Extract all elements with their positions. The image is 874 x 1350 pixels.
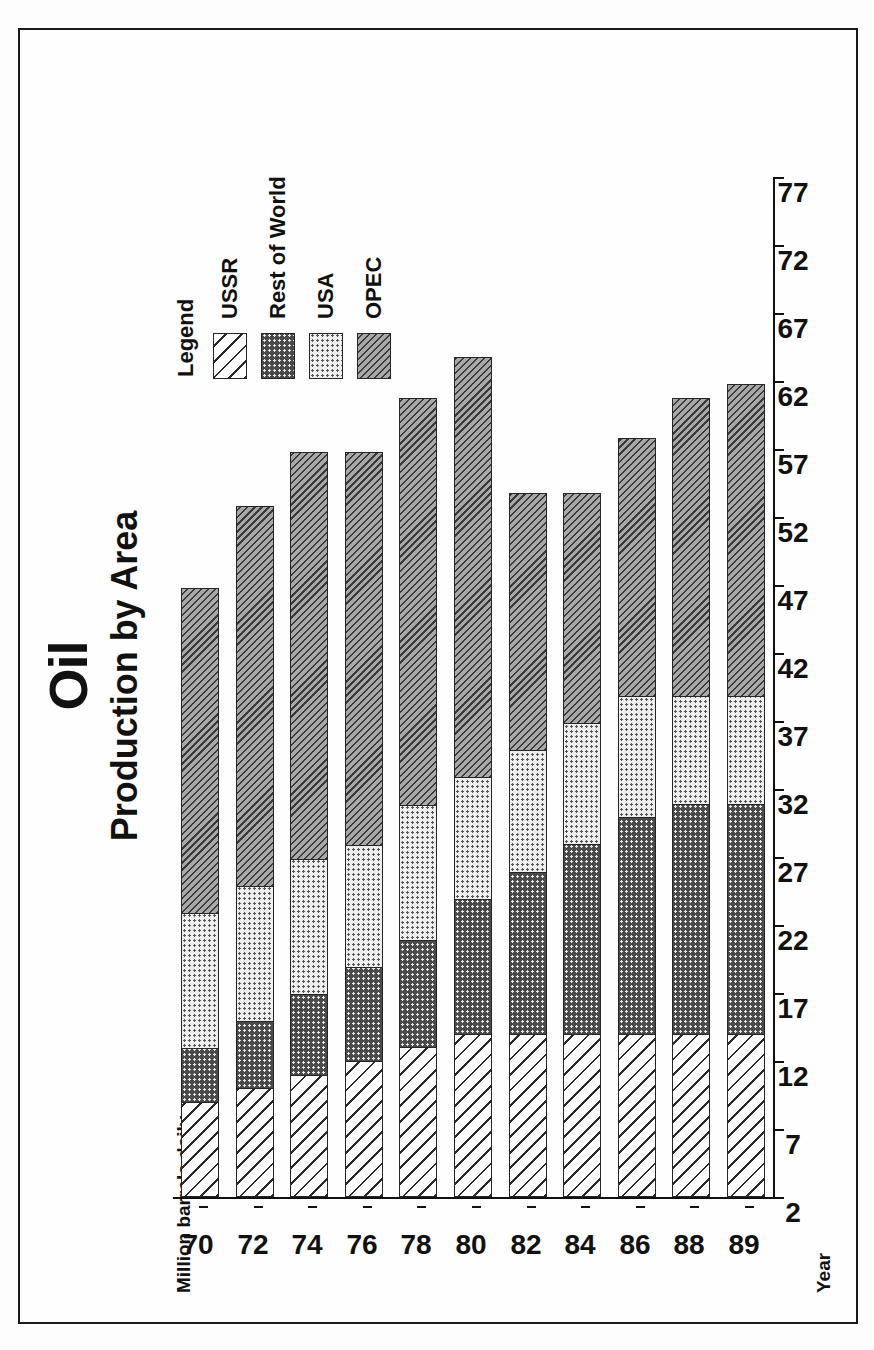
category-tick: [308, 1206, 317, 1208]
legend-item: USA: [309, 129, 343, 379]
bar-segment-ussr: [727, 1034, 765, 1197]
category-tick-label: 86: [619, 1229, 650, 1261]
bar-segment-rest-of-world: [236, 1021, 274, 1089]
bar-segment-opec: [181, 588, 219, 914]
value-tick-label: 22: [777, 925, 808, 957]
bar-segment-usa: [345, 845, 383, 967]
legend-rows: USSRRest of WorldUSAOPEC: [213, 129, 391, 379]
value-tick-label: 27: [777, 857, 808, 889]
bar-segment-opec: [454, 357, 492, 779]
legend-item-label: USA: [313, 273, 339, 319]
legend-swatch-rest-of-world: [261, 333, 295, 379]
bar-segment-ussr: [454, 1034, 492, 1197]
bar-row: [672, 398, 710, 1197]
legend-item-label: Rest of World: [265, 176, 291, 319]
bar-segment-rest-of-world: [618, 817, 656, 1035]
value-tick-label: 2: [785, 1197, 801, 1229]
bar-row: [345, 452, 383, 1197]
value-tick-label: 57: [777, 449, 808, 481]
bar-segment-usa: [618, 696, 656, 818]
category-tick: [254, 1206, 263, 1208]
bar-segment-rest-of-world: [672, 804, 710, 1035]
bar-segment-usa: [509, 750, 547, 872]
category-tick-label: 82: [510, 1229, 541, 1261]
category-axis-line: [173, 1197, 773, 1199]
value-tick-label: 37: [777, 721, 808, 753]
bar-segment-ussr: [399, 1047, 437, 1197]
bar-row: [290, 452, 328, 1197]
bar-row: [181, 588, 219, 1197]
category-tick-label: 89: [728, 1229, 759, 1261]
bar-segment-rest-of-world: [290, 994, 328, 1076]
bar-segment-ussr: [345, 1061, 383, 1197]
bar-row: [454, 357, 492, 1197]
bar-segment-usa: [563, 723, 601, 845]
value-tick-label: 62: [777, 381, 808, 413]
value-tick-label: 12: [777, 1061, 808, 1093]
bar-segment-opec: [727, 384, 765, 697]
legend-item: USSR: [213, 129, 247, 379]
bar-segment-usa: [399, 805, 437, 941]
bar-row: [399, 398, 437, 1197]
category-tick-label: 80: [455, 1229, 486, 1261]
legend-item-label: OPEC: [361, 257, 387, 319]
category-tick: [527, 1206, 536, 1208]
bar-segment-rest-of-world: [399, 940, 437, 1049]
bar-segment-opec: [563, 493, 601, 724]
bar-segment-opec: [345, 452, 383, 846]
bar-segment-opec: [618, 438, 656, 696]
legend-swatch-ussr: [213, 333, 247, 379]
legend-item: Rest of World: [261, 129, 295, 379]
category-tick-label: 70: [183, 1229, 214, 1261]
bar-segment-opec: [236, 506, 274, 887]
category-axis-label: Year: [813, 1253, 835, 1293]
category-tick: [581, 1206, 590, 1208]
category-tick: [745, 1206, 754, 1208]
bar-segment-usa: [727, 696, 765, 805]
category-tick-label: 76: [346, 1229, 377, 1261]
bar-segment-ussr: [618, 1034, 656, 1197]
bar-segment-ussr: [509, 1034, 547, 1197]
bar-row: [563, 493, 601, 1197]
bar-segment-rest-of-world: [563, 844, 601, 1034]
value-tick-label: 47: [777, 585, 808, 617]
category-tick-label: 72: [237, 1229, 268, 1261]
value-tick-label: 77: [777, 177, 808, 209]
bar-segment-ussr: [563, 1034, 601, 1197]
category-tick: [417, 1206, 426, 1208]
category-tick: [690, 1206, 699, 1208]
category-tick: [199, 1206, 208, 1208]
rotated-chart-stage: Oil Production by Area Million barrels d…: [23, 33, 853, 1319]
chart-subtitle: Production by Area: [107, 33, 143, 1319]
bar-segment-opec: [290, 452, 328, 860]
value-tick-label: 17: [777, 993, 808, 1025]
value-tick-label: 52: [777, 517, 808, 549]
bar-segment-opec: [672, 398, 710, 697]
bar-segment-usa: [454, 777, 492, 899]
category-tick: [472, 1206, 481, 1208]
bar-segment-rest-of-world: [454, 899, 492, 1035]
bar-segment-usa: [236, 886, 274, 1022]
bar-segment-ussr: [181, 1102, 219, 1197]
bar-segment-ussr: [290, 1075, 328, 1197]
value-tick-label: 42: [777, 653, 808, 685]
bar-segment-usa: [672, 696, 710, 805]
category-tick-label: 74: [292, 1229, 323, 1261]
bar-segment-usa: [181, 913, 219, 1049]
legend-item: OPEC: [357, 129, 391, 379]
bar-segment-rest-of-world: [345, 967, 383, 1062]
bar-segment-rest-of-world: [509, 872, 547, 1035]
bar-segment-ussr: [672, 1034, 710, 1197]
category-tick-label: 84: [565, 1229, 596, 1261]
value-tick-label: 32: [777, 789, 808, 821]
category-tick: [636, 1206, 645, 1208]
value-tick: [773, 1129, 784, 1131]
bar-row: [236, 506, 274, 1197]
legend-title: Legend: [173, 129, 199, 377]
legend-item-label: USSR: [217, 258, 243, 319]
legend-swatch-opec: [357, 333, 391, 379]
legend: Legend USSRRest of WorldUSAOPEC: [173, 129, 405, 379]
chart: Oil Production by Area Million barrels d…: [23, 33, 853, 1319]
value-tick-label: 67: [777, 313, 808, 345]
bar-row: [727, 384, 765, 1197]
